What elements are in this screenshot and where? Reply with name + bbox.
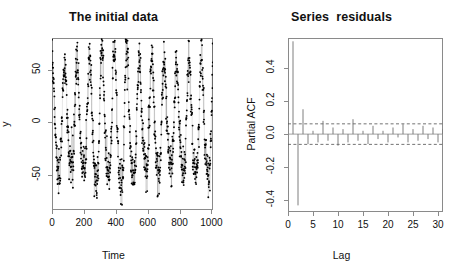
left-ytick-label: -50	[31, 164, 42, 184]
right-ytick-label: 0.2	[265, 86, 276, 112]
right-plot-title: Series residuals	[228, 10, 455, 24]
right-ytick-label: -0.4	[265, 186, 276, 212]
right-xtick-label: 0	[285, 219, 291, 230]
right-xtick-label: 15	[357, 219, 368, 230]
left-xtick-label: 200	[76, 217, 93, 228]
left-xtick-label: 600	[139, 217, 156, 228]
right-ytick-mark	[284, 167, 288, 168]
left-ytick-mark	[48, 122, 52, 123]
right-xtick-mark	[338, 212, 339, 216]
left-xaxis-label: Time	[0, 249, 227, 261]
left-yaxis-label: y	[0, 121, 11, 126]
right-xtick-label: 10	[332, 219, 343, 230]
right-xtick-mark	[288, 212, 289, 216]
left-xtick-mark	[116, 210, 117, 214]
right-ytick-mark	[284, 68, 288, 69]
left-ytick-mark	[48, 175, 52, 176]
left-xtick-mark	[84, 210, 85, 214]
left-xtick-mark	[148, 210, 149, 214]
right-ytick-label: 0.0	[265, 120, 276, 146]
right-yaxis-label: Partial ACF	[245, 97, 257, 150]
left-xtick-mark	[180, 210, 181, 214]
left-xtick-mark	[52, 210, 53, 214]
right-xtick-mark	[438, 212, 439, 216]
right-ytick-mark	[284, 200, 288, 201]
right-xtick-mark	[363, 212, 364, 216]
left-ytick-mark	[48, 70, 52, 71]
right-xaxis-label: Lag	[228, 249, 455, 261]
left-xtick-label: 0	[49, 217, 55, 228]
pacf-canvas	[288, 38, 443, 212]
left-xtick-label: 800	[171, 217, 188, 228]
right-ytick-mark	[284, 101, 288, 102]
left-plot-title: The initial data	[0, 10, 227, 24]
left-ytick-label: 0	[31, 111, 42, 131]
panel-initial-data: The initial data 02004006008001000-50050…	[0, 0, 227, 269]
left-scatter-canvas	[52, 38, 213, 210]
figure-root: The initial data 02004006008001000-50050…	[0, 0, 455, 269]
right-xtick-label: 20	[382, 219, 393, 230]
right-xtick-label: 5	[310, 219, 316, 230]
right-xtick-label: 30	[432, 219, 443, 230]
right-xtick-mark	[413, 212, 414, 216]
left-ytick-label: 50	[31, 58, 42, 78]
right-xtick-label: 25	[407, 219, 418, 230]
left-xtick-label: 1000	[200, 217, 222, 228]
right-ytick-label: -0.2	[265, 153, 276, 179]
right-ytick-mark	[284, 134, 288, 135]
right-ytick-label: 0.4	[265, 53, 276, 79]
left-xtick-mark	[211, 210, 212, 214]
panel-series-residuals: Series residuals 051015202530-0.4-0.20.0…	[228, 0, 455, 269]
right-xtick-mark	[313, 212, 314, 216]
left-xtick-label: 400	[107, 217, 124, 228]
right-xtick-mark	[388, 212, 389, 216]
